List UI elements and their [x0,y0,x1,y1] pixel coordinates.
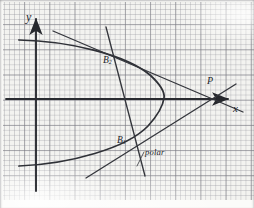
point-label-b1-sub: 1 [123,139,126,145]
point-label-b2: B2 [103,56,112,66]
polar-leader-line [137,152,144,166]
polar-annotation-label: polar [145,148,164,157]
diagram-artwork [0,0,254,208]
y-axis-label: y [26,11,31,23]
diagram-canvas: y x P B2 B1 polar [0,0,254,208]
x-axis-label: x [233,103,238,114]
parabola-curve [19,40,164,166]
point-label-p: P [207,76,213,86]
point-label-b1: B1 [117,136,126,146]
point-label-b2-sub: 2 [109,59,112,65]
